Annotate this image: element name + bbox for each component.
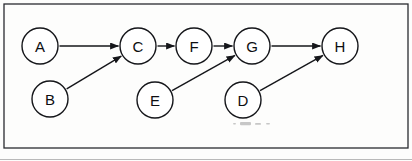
diagram-canvas: ABCDEFGH <box>0 0 412 161</box>
node-label-a: A <box>35 38 45 55</box>
node-h[interactable]: H <box>322 28 358 64</box>
smudge-mark <box>266 123 270 125</box>
node-label-e: E <box>150 92 160 109</box>
node-e[interactable]: E <box>137 82 173 118</box>
node-label-h: H <box>335 38 346 55</box>
smudge-mark <box>255 123 261 125</box>
edge-b-to-c <box>67 56 122 89</box>
node-f[interactable]: F <box>176 28 212 64</box>
node-label-f: F <box>189 38 198 55</box>
node-d[interactable]: D <box>225 82 261 118</box>
diagram-frame <box>4 4 408 148</box>
node-label-c: C <box>133 38 144 55</box>
node-a[interactable]: A <box>22 28 58 64</box>
node-b[interactable]: B <box>32 81 68 117</box>
nodes-group: ABCDEFGH <box>22 28 358 118</box>
node-label-g: G <box>246 38 258 55</box>
edge-d-to-h <box>260 55 323 90</box>
directed-graph: ABCDEFGH <box>0 0 412 161</box>
smudge-mark <box>233 123 236 125</box>
smudge-mark <box>240 122 251 125</box>
node-label-b: B <box>45 91 55 108</box>
node-g[interactable]: G <box>234 28 270 64</box>
node-label-d: D <box>238 92 249 109</box>
scan-smudge-icon <box>233 122 270 125</box>
node-c[interactable]: C <box>120 28 156 64</box>
